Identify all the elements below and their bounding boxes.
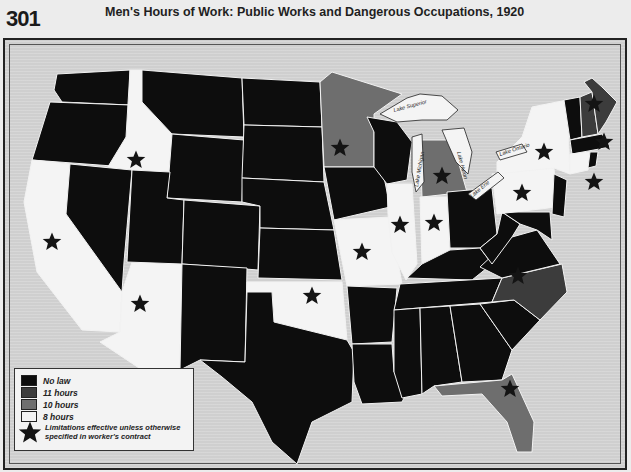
- legend-swatch-10-hours: [21, 399, 37, 410]
- legend-star-note: Limitations effective unless otherwise s…: [45, 423, 189, 441]
- page-title: Men's Hours of Work: Public Works and Da…: [105, 5, 524, 19]
- state-connecticut[interactable]: [570, 152, 590, 174]
- state-kansas[interactable]: [258, 228, 342, 280]
- map-legend: No law 11 hours 10 hours 8 hours Limitat…: [14, 368, 194, 451]
- legend-item-11-hours: 11 hours: [21, 387, 78, 398]
- state-northdakota[interactable]: [242, 78, 322, 127]
- state-newyork[interactable]: [497, 100, 570, 174]
- state-rhodeisland[interactable]: [588, 152, 598, 168]
- legend-label: No law: [43, 376, 70, 386]
- state-southdakota[interactable]: [242, 125, 324, 182]
- star-icon-connecticut: [585, 173, 604, 191]
- state-newmexico[interactable]: [180, 264, 247, 370]
- legend-label: 10 hours: [43, 400, 78, 410]
- legend-label: 11 hours: [43, 388, 78, 398]
- legend-swatch-11-hours: [21, 387, 37, 398]
- state-florida[interactable]: [434, 374, 534, 452]
- state-kentucky[interactable]: [407, 248, 492, 280]
- legend-item-no-law: No law: [21, 375, 70, 386]
- plate-number: 301: [6, 6, 40, 32]
- state-mississippi[interactable]: [394, 308, 422, 398]
- state-colorado[interactable]: [182, 200, 260, 270]
- legend-label: 8 hours: [43, 412, 74, 422]
- state-wyoming[interactable]: [167, 134, 244, 202]
- legend-item-10-hours: 10 hours: [21, 399, 78, 410]
- star-icon: [18, 421, 42, 445]
- state-arkansas[interactable]: [347, 286, 397, 344]
- state-washington[interactable]: [54, 70, 130, 105]
- legend-swatch-no-law: [21, 375, 37, 386]
- state-newjersey[interactable]: [552, 174, 567, 217]
